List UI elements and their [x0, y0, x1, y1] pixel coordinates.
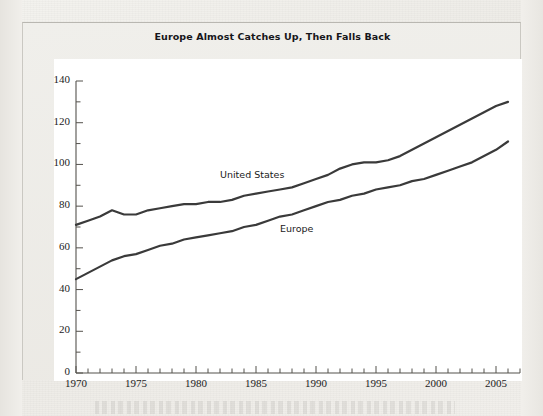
y-tick-label: 80	[23, 198, 70, 210]
y-tick-label: 0	[23, 365, 70, 377]
x-tick-label: 1985	[236, 377, 276, 389]
y-tick-label: 100	[23, 156, 70, 168]
series-line-europe	[76, 141, 508, 279]
x-tick-label: 1990	[296, 377, 336, 389]
x-tick-label: 2000	[416, 377, 456, 389]
x-tick-label: 2005	[476, 377, 516, 389]
series-label-united-states: United States	[220, 169, 284, 180]
chart-title: Europe Almost Catches Up, Then Falls Bac…	[23, 31, 522, 42]
x-tick-label: 1970	[56, 377, 96, 389]
figure-panel: Europe Almost Catches Up, Then Falls Bac…	[22, 22, 521, 380]
y-tick-label: 40	[23, 282, 70, 294]
plot-area	[54, 59, 522, 381]
series-label-europe: Europe	[280, 223, 313, 234]
x-tick-label: 1980	[176, 377, 216, 389]
y-tick-label: 140	[23, 73, 70, 85]
figure-caption-partial	[95, 401, 455, 414]
x-tick-label: 1995	[356, 377, 396, 389]
y-tick-label: 60	[23, 240, 70, 252]
page-right-margin	[521, 0, 543, 416]
page-left-margin	[0, 0, 22, 416]
series-line-united-states	[76, 102, 508, 225]
x-tick-label: 1975	[116, 377, 156, 389]
y-tick-label: 120	[23, 115, 70, 127]
chart-canvas	[54, 59, 522, 381]
y-tick-label: 20	[23, 323, 70, 335]
